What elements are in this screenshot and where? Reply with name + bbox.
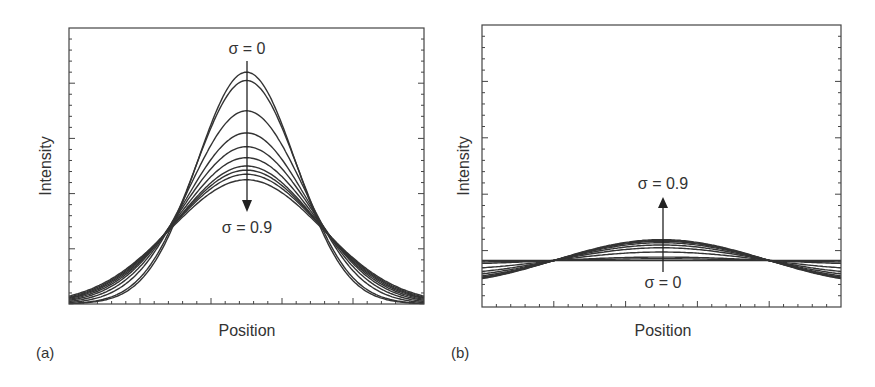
panel-b-chart: σ = 0.9 σ = 0 Position Intensity <box>440 0 875 387</box>
arrowhead-up-icon <box>658 197 668 208</box>
panel-b-annotation-top: σ = 0.9 <box>638 175 688 192</box>
panel-a-annotation-bottom: σ = 0.9 <box>222 219 272 236</box>
panel-a-xlabel: Position <box>219 322 276 339</box>
panel-b-xlabel: Position <box>635 322 692 339</box>
panel-b-ylabel: Intensity <box>455 136 472 196</box>
panel-b-curves <box>482 240 841 279</box>
panel-b-label: (b) <box>451 344 469 361</box>
arrowhead-down-icon <box>242 200 252 212</box>
panel-b-annotation-bottom: σ = 0 <box>644 274 681 291</box>
panel-a-annotation-top: σ = 0 <box>228 40 265 57</box>
panel-a-label: (a) <box>36 344 54 361</box>
panel-a-chart: σ = 0 σ = 0.9 Position Intensity <box>0 0 440 387</box>
panel-a-ylabel: Intensity <box>37 136 54 196</box>
